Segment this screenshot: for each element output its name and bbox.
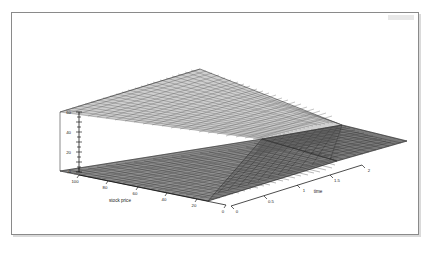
- time-tick-0-5: 0.5: [268, 199, 275, 204]
- figure-window: 60 40 20 0 100 80 60 40: [11, 12, 419, 235]
- stock-price-axis-label: stock price: [109, 198, 131, 203]
- stock-price-tick-60: 60: [133, 191, 138, 196]
- surface-plot-axes[interactable]: 60 40 20 0 100 80 60 40: [12, 13, 420, 236]
- time-tick-1: 1: [303, 188, 306, 193]
- time-tick-1-5: 1.5: [334, 178, 341, 183]
- stock-price-tick-20: 20: [192, 203, 197, 208]
- stock-price-tick-80: 80: [103, 185, 108, 190]
- value-tick-20: 20: [66, 150, 71, 155]
- stock-price-tick-40: 40: [162, 197, 167, 202]
- time-tick-2: 2: [368, 168, 371, 173]
- value-tick-60: 60: [66, 110, 71, 115]
- value-tick-40: 40: [66, 130, 71, 135]
- stock-price-tick-0: 0: [222, 209, 225, 214]
- time-tick-0: 0: [236, 209, 239, 214]
- surface-plot-svg[interactable]: 60 40 20 0 100 80 60 40: [12, 13, 420, 236]
- value-axis: 60 40 20 0: [66, 110, 82, 174]
- stock-price-tick-100: 100: [71, 179, 79, 184]
- time-axis-label: time: [314, 189, 323, 194]
